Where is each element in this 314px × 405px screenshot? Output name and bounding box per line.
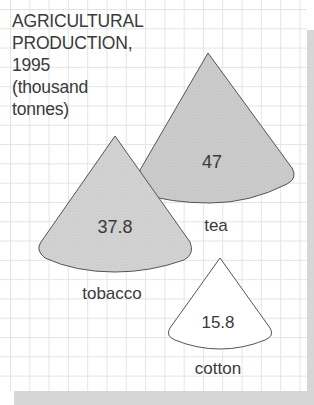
cone-cotton-value: 15.8 bbox=[201, 313, 234, 332]
cone-tea-label: tea bbox=[204, 216, 228, 235]
cone-chart: 47 tea 37.8 tobacco 15.8 cotton bbox=[0, 0, 314, 405]
cone-tea-value: 47 bbox=[202, 152, 222, 172]
cone-cotton: 15.8 cotton bbox=[168, 258, 271, 378]
cone-cotton-label: cotton bbox=[195, 359, 241, 378]
cone-tobacco-label: tobacco bbox=[82, 284, 142, 303]
cone-tobacco-value: 37.8 bbox=[97, 217, 132, 237]
